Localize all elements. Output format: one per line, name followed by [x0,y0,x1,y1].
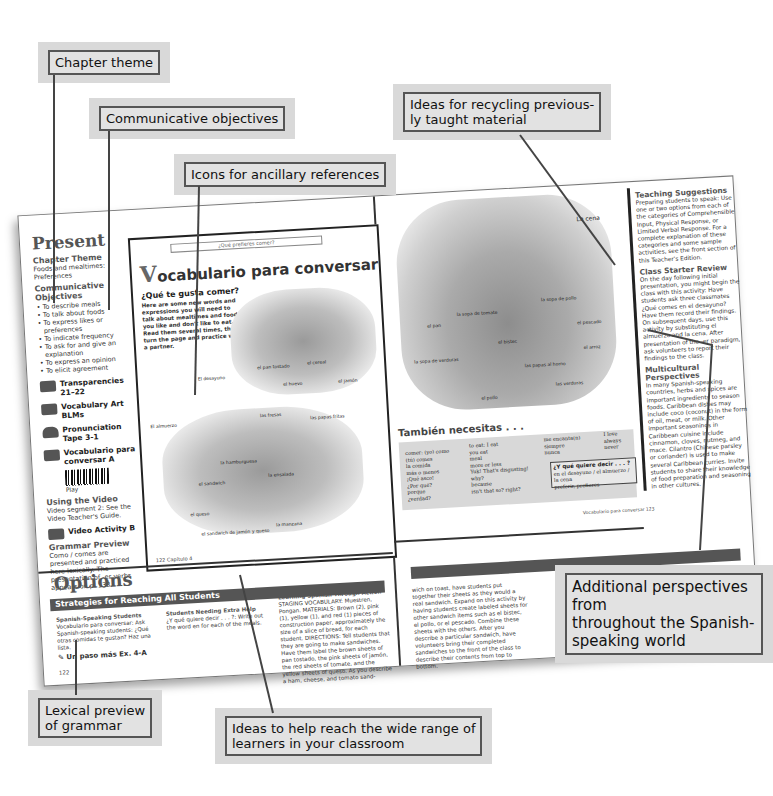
food-label: El almuerzo [150,423,177,429]
options-col-continued: wich on toast, have students put togethe… [412,581,532,671]
ancillary-label: Vocabulary Art BLMs [61,399,134,420]
col-text: wich on toast, have students put togethe… [412,581,532,671]
food-label: el queso [190,511,209,517]
food-label: el arroz [584,344,601,350]
transparency-icon [40,381,57,393]
quiere-decir-box: ¿Y qué quiere decir . . . ? en el desayu… [550,457,637,488]
objectives-list: To describe meals To talk about foods To… [35,298,131,375]
video-icon [48,528,65,540]
options-col-action: Learning Spanish Through Action STAGING … [278,588,393,685]
vocabulary-title: Vocabulario para conversar [139,248,379,287]
callout-text: Ideas for recycling previous- ly taught … [403,92,601,132]
teacher-sidebar: Present Chapter Theme Foods and mealtime… [31,228,143,592]
ancillary-label: Transparencies 21–22 [60,376,133,397]
intro-text: Here are some new words and expressions … [141,297,244,352]
callout-icons-ancillary: Icons for ancillary references [174,154,396,195]
ancillary-video-activity: Video Activity B [48,524,140,540]
ancillary-label: Vocabulario para conversar A [64,445,137,466]
reference-label: Un paso más Ex. 4-A [66,649,147,661]
student-page-inset: ¿Qué prefieres comer? Vocabulario para c… [128,224,397,571]
callout-communicative-objectives: Communicative objectives [89,98,295,139]
callout-text: Communicative objectives [99,106,285,131]
videodisc-icon [44,449,61,461]
options-heading: Options [53,569,133,594]
present-heading: Present [31,228,124,253]
vocab-box: comer: (yo) como (tú) comes la comida má… [399,429,637,510]
running-head: ¿Qué prefieres comer? [170,235,322,252]
title-rest: ocabulario para conversar [157,255,379,285]
callout-lexical-preview: Lexical preview of grammar [28,690,162,746]
food-label: el huevo [283,381,303,387]
callout-text: Ideas to help reach the wide range of le… [225,716,482,756]
callout-text: Chapter theme [48,50,160,75]
un-paso-mas-reference: ✎ Un paso más Ex. 4-A [58,649,153,661]
food-label: el pan [427,323,441,329]
callout-text: Additional perspectives from throughout … [565,573,763,655]
callout-chapter-theme: Chapter theme [38,42,170,83]
vocab-col: I love always never [603,430,621,450]
col-text: STAGING VOCABULARY: Muestren, Pongan. MA… [278,595,393,685]
vocabulary-art-icon [41,403,58,415]
options-col-extra-help: Students Needing Extra Help ¿Y qué quier… [166,605,267,632]
food-label: el cereal [307,359,326,365]
quiere-text: en el desayuno / el almuerzo / la cena p… [553,466,634,490]
options-col-spanish-speakers: Spanish-Speaking Students Vocabulario pa… [56,612,153,662]
ancillary-pronunciation-tape: Pronunciation Tape 3-1 [42,422,135,444]
left-page: Present Chapter Theme Foods and mealtime… [18,196,401,685]
ancillary-vocabulary-art: Vocabulary Art BLMs [41,399,134,421]
page-footer: 122 Capítulo 4 [156,555,193,563]
callout-recycling: Ideas for recycling previous- ly taught … [393,84,611,140]
vocab-col: me encanta(n) siempre nunca [544,434,582,456]
food-label: el pollo [481,395,498,401]
ancillary-transparencies: Transparencies 21–22 [40,376,133,398]
callout-text: Icons for ancillary references [184,162,386,187]
food-label: el jamón [338,378,358,384]
callout-additional-perspectives: Additional perspectives from throughout … [555,565,773,663]
dinner-illustration [393,191,619,413]
multicultural-text: In many Spanish-speaking countries, herb… [646,377,752,490]
col-text: Vocabulario para conversar: Ask Spanish-… [56,619,152,652]
class-starter-text: On the day following initial presentatio… [640,271,745,363]
vocab-col: comer: (yo) como (tú) comes la comida má… [405,448,452,502]
title-initial: V [139,261,158,288]
page-number: 122 [59,669,70,676]
page-footer: Vocabulario para conversar 123 [583,506,655,515]
ancillary-label: Video Activity B [68,524,136,536]
food-label: el bistec [498,339,517,345]
ancillary-videodisc: Vocabulario para conversar A [44,445,137,467]
callout-text: Lexical preview of grammar [38,698,152,738]
callout-reach-learners: Ideas to help reach the wide range of le… [215,708,492,764]
divider [394,527,644,543]
food-label: El desayuno [198,375,226,382]
cassette-tape-icon [42,426,59,438]
ancillary-label: Pronunciation Tape 3-1 [62,422,135,443]
teaching-suggestions-text: Preparing students to speak: Use one or … [635,194,738,264]
teacher-column: Teaching Suggestions Preparing students … [627,182,752,491]
scene-label: La cena [576,214,600,222]
lunch-illustration [160,403,367,539]
vocab-col: to eat: I eat you eat meal more or less … [469,439,530,494]
